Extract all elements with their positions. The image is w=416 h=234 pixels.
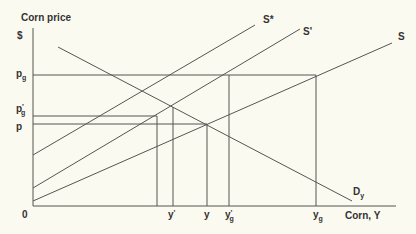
supply-curve-s-prime	[33, 29, 300, 188]
curve-label-demand: Dy	[353, 187, 364, 197]
curve-label-s-star: S*	[263, 15, 274, 25]
curve-label-s: S	[398, 32, 405, 42]
supply-demand-diagram	[0, 0, 416, 234]
price-label-p: p	[16, 122, 22, 132]
quantity-label-yg: yg	[313, 210, 323, 220]
supply-curve-s	[33, 43, 392, 201]
diagram-title: Corn price	[21, 13, 71, 23]
y-axis-label: $	[17, 31, 23, 41]
origin-label: 0	[22, 210, 28, 220]
curve-label-s-prime: S'	[303, 27, 312, 37]
price-label-pg-prime: p'g	[16, 104, 25, 114]
supply-curve-s-star	[33, 25, 255, 155]
quantity-label-y: y	[204, 210, 210, 220]
quantity-label-yg-prime: y'g	[225, 210, 234, 220]
price-label-pg: pg	[16, 69, 26, 79]
x-axis-label: Corn, Y	[345, 211, 380, 221]
quantity-label-y-prime: y'	[168, 210, 175, 220]
